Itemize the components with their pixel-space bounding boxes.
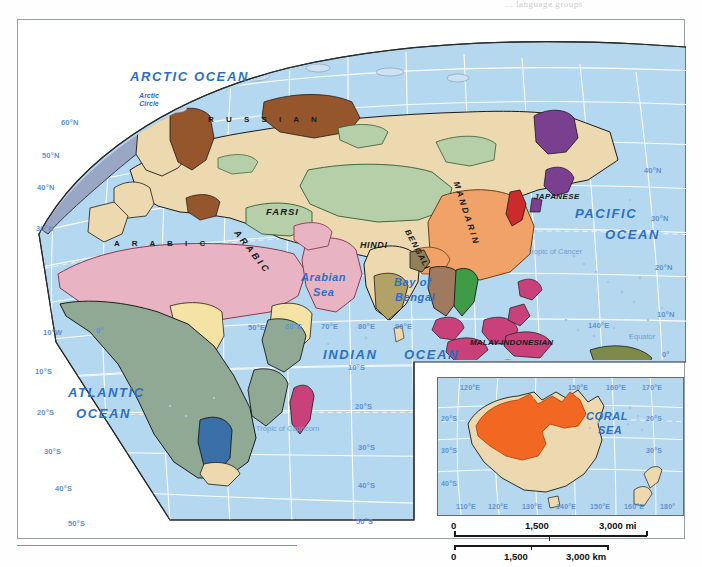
tasmania (548, 496, 560, 508)
scale-km-tick-0: 0 (451, 551, 456, 562)
scale-bars: 0 1,500 3,000 mi 0 1,500 3,000 km (451, 520, 681, 562)
map-plate: ARCTIC OCEAN Arctic Circle R U S S I A N… (17, 19, 685, 539)
scale-km-end-left (454, 545, 456, 550)
australia-inset-map[interactable]: 120°E 150°E 160°E 170°E 20°S 30°S 40°S 2… (437, 377, 684, 516)
australia-inset-svg (438, 378, 684, 516)
scale-km-end-right (607, 545, 609, 550)
scale-km-mid-tick (531, 545, 532, 550)
scale-mi-mid-tick (549, 536, 550, 541)
map-page: ... language groups (0, 0, 702, 567)
scale-km-tick-1500: 1,500 (504, 551, 528, 562)
scale-mi-tick-3000: 3,000 mi (599, 520, 637, 531)
cutoff-header-text: ... language groups (505, 0, 695, 10)
japanese-kyushu (530, 198, 542, 212)
scale-km-tick-3000: 3,000 km (566, 551, 606, 562)
scale-mi-end-left (454, 531, 456, 536)
scale-mi-end-right (646, 531, 648, 536)
scale-mi-bar (454, 535, 647, 537)
scale-mi-tick-1500: 1,500 (525, 520, 549, 531)
bottom-trim-line (17, 545, 297, 546)
scale-mi-tick-0: 0 (451, 520, 456, 531)
